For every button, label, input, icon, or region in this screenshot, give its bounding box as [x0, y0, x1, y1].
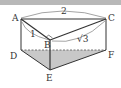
label-d: D — [10, 52, 17, 61]
measure-bc: √3 — [77, 35, 88, 44]
label-e: E — [46, 74, 53, 83]
measure-ab: 1 — [30, 30, 36, 39]
label-a: A — [12, 14, 19, 23]
label-f: F — [108, 51, 114, 60]
measure-ac: 2 — [61, 7, 67, 16]
label-b: B — [44, 41, 51, 50]
shaded-face-def — [21, 50, 106, 70]
label-c: C — [108, 14, 115, 23]
